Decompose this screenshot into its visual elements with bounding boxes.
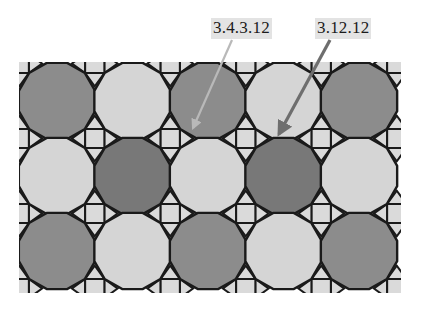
tiling-triangle-up bbox=[10, 41, 29, 54]
tiling-triangle-down bbox=[236, 298, 255, 311]
tiling-dodecagon bbox=[321, 213, 397, 289]
tiling-square bbox=[312, 279, 331, 298]
tiling-square bbox=[236, 279, 255, 298]
vertex-figure-label-3-12-12: 3.12.12 bbox=[315, 18, 371, 39]
tiling-square bbox=[10, 54, 29, 73]
tiling-triangle-up bbox=[387, 41, 406, 54]
tiling-square bbox=[10, 279, 29, 298]
tiling-triangle-up bbox=[85, 41, 104, 54]
tiling-square bbox=[10, 129, 29, 148]
tiling-triangle-up bbox=[236, 41, 255, 54]
tiling-triangle-down bbox=[387, 298, 406, 311]
tiling-triangle-left bbox=[0, 279, 10, 298]
tiling-triangle-right bbox=[406, 54, 419, 73]
tiling-canvas bbox=[0, 0, 430, 312]
tiling-square bbox=[85, 54, 104, 73]
tiling-triangle-left bbox=[0, 129, 10, 148]
tiling-dodecagon bbox=[94, 138, 170, 214]
tiling-triangle-down bbox=[312, 298, 331, 311]
tiling-square bbox=[387, 279, 406, 298]
tiling-square bbox=[387, 54, 406, 73]
tiling-square bbox=[312, 129, 331, 148]
tiling-triangle-right bbox=[406, 204, 419, 223]
tiling-dodecagon bbox=[94, 63, 170, 139]
vertex-figure-label-3-4-3-12: 3.4.3.12 bbox=[211, 18, 272, 39]
tiling-shapes bbox=[0, 41, 420, 312]
tiling-triangle-down bbox=[10, 298, 29, 311]
tiling-square bbox=[161, 204, 180, 223]
tiling-square bbox=[85, 279, 104, 298]
tiling-square bbox=[161, 279, 180, 298]
tiling-square bbox=[387, 204, 406, 223]
tiling-dodecagon bbox=[245, 213, 321, 289]
tiling-dodecagon bbox=[170, 63, 246, 139]
tiling-square bbox=[161, 54, 180, 73]
tiling-triangle-up bbox=[161, 41, 180, 54]
tiling-triangle-down bbox=[85, 298, 104, 311]
tiling-dodecagon bbox=[19, 138, 95, 214]
tiling-triangle-left bbox=[0, 54, 10, 73]
tiling-dodecagon bbox=[170, 213, 246, 289]
tiling-square bbox=[236, 54, 255, 73]
tiling-square bbox=[236, 204, 255, 223]
tiling-figure: 3.4.3.12 3.12.12 bbox=[0, 0, 430, 312]
tiling-square bbox=[161, 129, 180, 148]
tiling-dodecagon bbox=[94, 213, 170, 289]
tiling-triangle-right bbox=[406, 279, 419, 298]
tiling-square bbox=[10, 204, 29, 223]
tiling-triangle-right bbox=[406, 129, 419, 148]
tiling-dodecagon bbox=[321, 138, 397, 214]
tiling-triangle-left bbox=[0, 204, 10, 223]
tiling-dodecagon bbox=[19, 213, 95, 289]
tiling-square bbox=[85, 204, 104, 223]
tiling-square bbox=[85, 129, 104, 148]
tiling-square bbox=[312, 204, 331, 223]
tiling-square bbox=[387, 129, 406, 148]
tiling-triangle-down bbox=[161, 298, 180, 311]
tiling-dodecagon bbox=[19, 63, 95, 139]
tiling-dodecagon bbox=[321, 63, 397, 139]
tiling-dodecagon bbox=[245, 138, 321, 214]
tiling-square bbox=[236, 129, 255, 148]
tiling-dodecagon bbox=[170, 138, 246, 214]
